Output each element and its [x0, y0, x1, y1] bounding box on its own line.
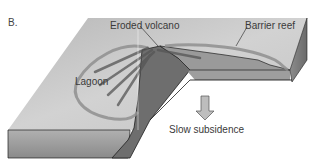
- label-lagoon: Lagoon: [75, 77, 108, 87]
- panel-label: B.: [8, 17, 17, 28]
- label-slow-subsidence: Slow subsidence: [169, 125, 244, 135]
- right-front-face: [188, 70, 290, 80]
- subsidence-arrow-icon: [196, 96, 214, 120]
- subsidence-block-diagram: B. Eroded volcano Barrier reef Lagoon Sl…: [0, 0, 319, 166]
- label-barrier-reef: Barrier reef: [245, 21, 295, 31]
- label-eroded-volcano: Eroded volcano: [110, 21, 180, 31]
- left-front-face: [8, 130, 130, 158]
